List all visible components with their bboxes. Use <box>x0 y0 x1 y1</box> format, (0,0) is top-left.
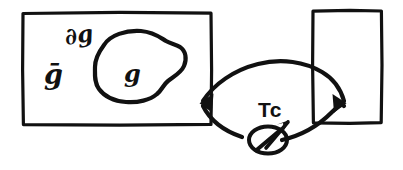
label-arc-text: Tc <box>258 98 282 121</box>
diagram-svg: ḡ ∂g g Tc <box>0 0 403 170</box>
label-interior-region: g <box>124 59 141 88</box>
right-rectangle <box>313 10 382 123</box>
label-arc: Tc <box>258 98 282 121</box>
lens-upper-arc <box>203 61 344 101</box>
label-ambient-region-text: ḡ <box>44 59 63 90</box>
label-ambient-region: ḡ <box>44 59 63 90</box>
label-boundary: ∂g <box>63 19 95 50</box>
label-interior-region-text: g <box>124 59 141 88</box>
diagram-canvas: ḡ ∂g g Tc <box>0 0 403 170</box>
label-boundary-text: ∂g <box>63 19 95 50</box>
